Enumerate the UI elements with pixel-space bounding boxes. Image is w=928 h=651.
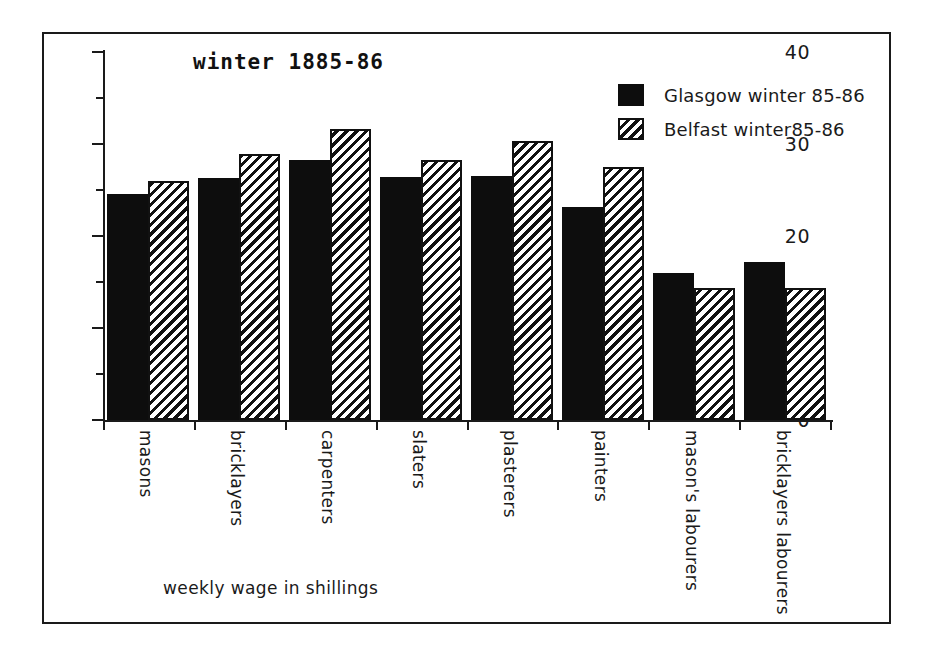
bar xyxy=(744,262,785,420)
y-tick-minor xyxy=(96,189,104,191)
bar xyxy=(512,141,553,420)
x-tick xyxy=(467,421,469,430)
x-category-label: slaters xyxy=(409,430,429,489)
y-tick-label: 40 xyxy=(785,41,810,63)
bar xyxy=(289,160,330,420)
y-tick-minor xyxy=(96,281,104,283)
x-category-label: bricklayers labourers xyxy=(773,430,793,615)
bar xyxy=(198,178,239,420)
x-category-label: mason's labourers xyxy=(682,430,702,591)
x-category-label: carpenters xyxy=(318,430,338,525)
x-tick xyxy=(739,421,741,430)
y-tick-major xyxy=(92,235,104,237)
bar xyxy=(785,288,826,420)
y-tick-minor xyxy=(96,373,104,375)
y-tick-major xyxy=(92,51,104,53)
chart-figure: winter 1885-86 010203040 masonsbricklaye… xyxy=(0,0,928,651)
x-tick xyxy=(103,421,105,430)
chart-legend: Glasgow winter 85-86Belfast winter85-86 xyxy=(618,78,878,146)
x-category-label: painters xyxy=(591,430,611,502)
legend-label: Belfast winter85-86 xyxy=(664,119,845,140)
x-category-label: bricklayers xyxy=(227,430,247,527)
y-tick-label: 20 xyxy=(785,225,810,247)
bar xyxy=(694,288,735,420)
bar xyxy=(107,194,148,420)
x-tick xyxy=(648,421,650,430)
bar xyxy=(148,181,189,420)
x-tick xyxy=(830,421,832,430)
y-tick-major xyxy=(92,143,104,145)
bar xyxy=(239,154,280,420)
legend-item: Glasgow winter 85-86 xyxy=(618,78,878,112)
x-category-label: masons xyxy=(136,430,156,498)
bar xyxy=(653,273,694,420)
x-tick xyxy=(194,421,196,430)
bar xyxy=(562,207,603,420)
bar xyxy=(421,160,462,420)
x-category-label: plasterers xyxy=(500,430,520,518)
x-tick xyxy=(557,421,559,430)
legend-swatch xyxy=(618,84,644,106)
legend-item: Belfast winter85-86 xyxy=(618,112,878,146)
x-axis-caption: weekly wage in shillings xyxy=(163,578,378,598)
bar xyxy=(380,177,421,420)
bar xyxy=(471,176,512,420)
y-tick-minor xyxy=(96,97,104,99)
legend-swatch xyxy=(618,118,644,140)
y-tick-major xyxy=(92,327,104,329)
bar xyxy=(330,129,371,420)
x-tick xyxy=(376,421,378,430)
legend-label: Glasgow winter 85-86 xyxy=(664,85,865,106)
x-tick xyxy=(285,421,287,430)
bar xyxy=(603,167,644,420)
